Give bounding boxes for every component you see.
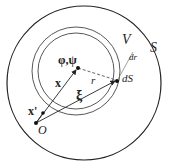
- point-xprime: [41, 111, 45, 115]
- label-xi: ξ: [76, 88, 83, 103]
- label-r: r: [91, 74, 96, 86]
- label-O: O: [38, 123, 47, 137]
- label-dr: dr: [129, 52, 138, 62]
- diagram: S V dr dS r ξ x φ,ψ x' O: [0, 0, 169, 165]
- label-x: x: [55, 76, 61, 90]
- point-dS: [115, 79, 119, 83]
- outer-surface-S: [7, 6, 161, 160]
- label-phipsi: φ,ψ: [58, 53, 77, 67]
- label-xprime: x': [28, 104, 37, 118]
- label-V: V: [122, 32, 132, 47]
- label-dS: dS: [122, 72, 134, 84]
- r-dashed-line: [78, 68, 116, 80]
- label-S: S: [150, 40, 157, 55]
